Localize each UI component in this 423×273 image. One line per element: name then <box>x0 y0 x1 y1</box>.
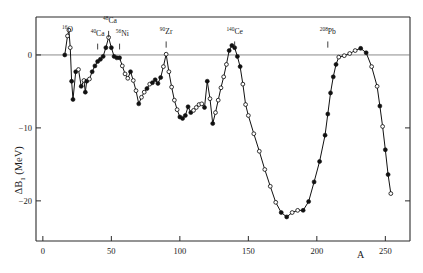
data-point-filled <box>279 211 283 215</box>
data-point-open <box>123 72 127 76</box>
data-point-open <box>274 200 278 204</box>
data-point-filled <box>101 54 105 58</box>
data-point-filled <box>318 159 322 163</box>
x-tick-label: 0 <box>41 246 45 256</box>
data-point-filled <box>156 81 160 85</box>
data-point-filled <box>70 79 74 83</box>
data-point-filled <box>159 76 163 80</box>
data-point-filled <box>118 56 122 60</box>
figure-background <box>0 0 423 273</box>
data-point-filled <box>211 122 215 126</box>
data-point-open <box>164 52 168 56</box>
data-point-open <box>263 168 267 172</box>
data-point-filled <box>334 62 338 66</box>
data-point-open <box>381 125 385 129</box>
data-point-open <box>222 75 226 79</box>
data-point-open <box>134 89 138 93</box>
data-point-open <box>170 85 174 89</box>
data-point-filled <box>83 90 87 94</box>
x-tick-label: 50 <box>107 246 116 256</box>
data-point-filled <box>235 54 239 58</box>
data-point-open <box>375 84 379 88</box>
y-tick-label: −10 <box>19 123 32 133</box>
x-axis-label: A <box>357 249 365 260</box>
data-point-open <box>225 63 229 67</box>
data-point-filled <box>137 102 141 106</box>
data-point-open <box>88 77 92 81</box>
data-point-filled <box>359 46 363 50</box>
data-point-open <box>244 103 248 107</box>
data-point-filled <box>63 53 67 57</box>
data-point-filled <box>183 114 187 118</box>
x-tick-label: 250 <box>379 246 392 256</box>
data-point-open <box>348 52 352 56</box>
x-tick-label: 150 <box>242 246 255 256</box>
data-point-filled <box>129 70 133 74</box>
data-point-open <box>214 111 218 115</box>
data-point-filled <box>312 180 316 184</box>
data-point-open <box>353 49 357 53</box>
data-point-open <box>216 98 220 102</box>
data-point-filled <box>323 133 327 137</box>
data-point-open <box>200 102 204 106</box>
data-point-filled <box>104 46 108 50</box>
data-point-filled <box>109 46 113 50</box>
data-point-filled <box>93 64 97 68</box>
data-point-filled <box>145 87 149 91</box>
data-point-filled <box>307 200 311 204</box>
data-point-filled <box>227 49 231 53</box>
data-point-filled <box>71 97 75 101</box>
data-point-open <box>131 79 135 83</box>
nuclear-binding-energy-figure: 050100150200250 0−10−20 16O40Ca48Ca56Ni9… <box>0 0 423 273</box>
data-point-open <box>241 82 245 86</box>
data-point-open <box>68 46 72 50</box>
data-point-filled <box>153 78 157 82</box>
data-point-open <box>219 86 223 90</box>
data-point-open <box>296 208 300 212</box>
data-point-open <box>290 211 294 215</box>
data-point-open <box>172 98 176 102</box>
data-point-open <box>140 95 144 99</box>
data-point-filled <box>331 75 335 79</box>
y-tick-label: 0 <box>28 50 32 60</box>
data-point-open <box>389 192 393 196</box>
data-point-open <box>126 76 130 80</box>
x-tick-label: 200 <box>310 246 323 256</box>
data-point-open <box>77 68 81 72</box>
data-point-open <box>370 65 374 69</box>
data-point-open <box>167 70 171 74</box>
data-point-filled <box>329 91 333 95</box>
data-point-filled <box>203 105 207 109</box>
data-point-filled <box>383 148 387 152</box>
data-point-open <box>120 64 124 68</box>
chart-canvas: 050100150200250 0−10−20 16O40Ca48Ca56Ni9… <box>0 0 423 273</box>
data-point-open <box>252 132 256 136</box>
data-point-filled <box>79 84 83 88</box>
data-point-filled <box>285 215 289 219</box>
data-point-filled <box>186 105 190 109</box>
x-tick-label: 100 <box>173 246 186 256</box>
data-point-filled <box>378 104 382 108</box>
data-point-open <box>268 184 272 188</box>
data-point-open <box>342 54 346 58</box>
data-point-open <box>162 65 166 69</box>
data-point-filled <box>301 208 305 212</box>
data-point-filled <box>386 173 390 177</box>
data-point-open <box>337 55 341 59</box>
data-point-open <box>142 90 146 94</box>
data-point-open <box>66 34 70 38</box>
data-point-filled <box>205 79 209 83</box>
y-tick-label: −20 <box>19 196 32 206</box>
data-point-open <box>208 97 212 101</box>
data-point-open <box>246 114 250 118</box>
data-point-filled <box>238 65 242 69</box>
data-point-open <box>175 108 179 112</box>
data-point-filled <box>326 112 330 116</box>
data-point-filled <box>364 51 368 55</box>
data-point-filled <box>90 70 94 74</box>
data-point-open <box>257 149 261 153</box>
